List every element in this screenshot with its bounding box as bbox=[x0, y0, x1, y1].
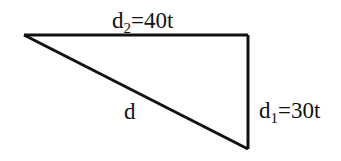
label-d1: d1=30t bbox=[259, 98, 321, 126]
label-d-hypotenuse: d bbox=[124, 99, 136, 124]
hypotenuse-d bbox=[24, 35, 248, 149]
label-d1-value: =30t bbox=[278, 98, 321, 123]
label-d1-base: d bbox=[259, 98, 271, 123]
label-d2: d2=40t bbox=[112, 8, 174, 36]
label-d2-subscript: 2 bbox=[124, 20, 132, 36]
label-d1-subscript: 1 bbox=[271, 110, 279, 126]
right-triangle-diagram: d2=40t d1=30t d bbox=[0, 0, 341, 161]
label-d2-base: d bbox=[112, 8, 124, 33]
label-d2-value: =40t bbox=[131, 8, 174, 33]
triangle bbox=[24, 35, 248, 149]
